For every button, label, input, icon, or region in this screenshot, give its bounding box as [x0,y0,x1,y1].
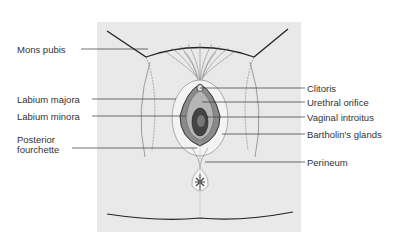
label-bartholins-glands: Bartholin's glands [307,129,382,140]
label-labium-majora: Labium majora [17,94,80,105]
label-urethral-orifice: Urethral orifice [307,97,369,108]
label-perineum: Perineum [307,157,348,168]
anatomy-illustration [0,0,403,248]
label-vaginal-introitus: Vaginal introitus [307,112,374,123]
label-fourchette: fourchette [17,144,59,155]
groin-line [107,29,288,57]
label-mons-pubis: Mons pubis [17,44,66,55]
label-labium-minora: Labium minora [17,111,80,122]
label-clitoris: Clitoris [307,83,336,94]
